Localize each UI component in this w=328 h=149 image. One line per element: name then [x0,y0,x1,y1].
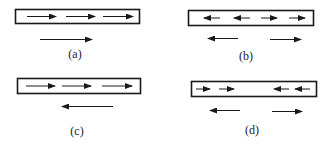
panel-c [18,79,141,107]
panel-label-c: (c) [70,124,83,139]
panel-b [189,11,314,40]
panel-label-d: (d) [245,123,259,138]
panel-d [192,82,317,112]
magnetic-domain-diagram [0,0,328,149]
panel-a [16,10,140,40]
panel-label-a: (a) [68,47,81,62]
panel-label-b: (b) [239,49,253,64]
